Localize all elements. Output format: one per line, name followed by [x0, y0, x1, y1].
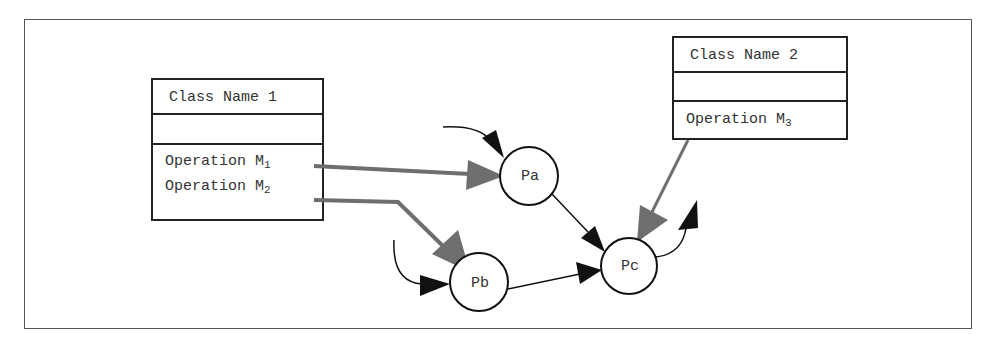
operation-link-m1 [314, 160, 504, 190]
process-label-pb: Pb [471, 275, 489, 292]
flow-pb-to-pc [508, 262, 602, 289]
input-flow-pa [443, 127, 504, 158]
edges-layer [0, 0, 994, 344]
process-label-pa: Pa [521, 168, 539, 185]
output-flow-pc [656, 200, 698, 257]
process-label-pc: Pc [621, 258, 639, 275]
operation-link-m2 [314, 200, 470, 272]
flow-pa-to-pc [552, 194, 605, 252]
